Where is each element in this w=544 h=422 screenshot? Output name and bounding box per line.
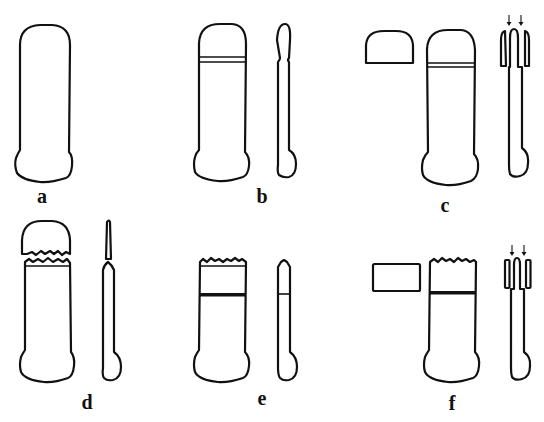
panel-c-detached-cap bbox=[366, 31, 413, 63]
panel-d-fractured-body bbox=[20, 258, 74, 382]
panel-a-label: a bbox=[37, 186, 47, 206]
panel-e-side-view bbox=[278, 260, 297, 380]
panel-e-fractured-body bbox=[194, 258, 249, 382]
panel-b-front-body bbox=[194, 24, 249, 181]
panel-d-side-view bbox=[103, 262, 121, 380]
diagram-canvas bbox=[0, 0, 544, 422]
panel-f-dark-band bbox=[429, 291, 476, 295]
panel-f-fractured-body bbox=[424, 258, 479, 382]
panel-d-fractured-cap bbox=[22, 221, 70, 255]
panel-c bbox=[366, 15, 529, 185]
panel-b-label: b bbox=[256, 186, 267, 206]
panel-c-fork-left-prong bbox=[501, 31, 506, 66]
panel-d bbox=[20, 221, 121, 383]
panel-f-fork-left-prong bbox=[505, 260, 510, 288]
panel-d-side-fragment bbox=[106, 221, 111, 260]
panel-c-front-body bbox=[422, 30, 478, 185]
panel-b bbox=[194, 24, 296, 181]
panel-f-arrow-right-icon bbox=[522, 245, 527, 256]
panel-c-arrow-right-icon bbox=[519, 15, 524, 26]
panel-c-label: c bbox=[441, 195, 450, 215]
panel-b-side-view bbox=[277, 24, 296, 177]
panel-f-label: f bbox=[449, 393, 456, 413]
panel-e-dark-band bbox=[199, 293, 246, 297]
panel-f-arrow-left-icon bbox=[510, 245, 515, 256]
panel-c-fork-right-prong bbox=[525, 31, 529, 66]
panel-c-arrow-left-icon bbox=[507, 15, 512, 26]
panel-f-fork-right-prong bbox=[526, 260, 531, 288]
panel-d-label: d bbox=[81, 392, 92, 412]
panel-e bbox=[194, 258, 297, 382]
panel-e-label: e bbox=[258, 388, 267, 408]
panel-f bbox=[373, 245, 531, 382]
panel-a-front-body bbox=[15, 25, 72, 182]
panel-f-rectangular-block bbox=[373, 264, 420, 291]
panel-a bbox=[15, 25, 72, 182]
